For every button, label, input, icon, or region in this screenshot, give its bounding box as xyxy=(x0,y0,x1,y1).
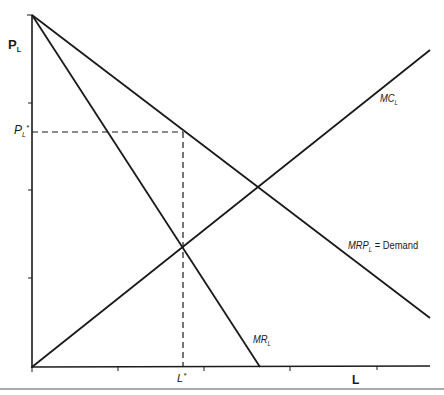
x-axis xyxy=(31,366,430,367)
mr-curve-label: MRL xyxy=(253,334,271,347)
mr-curve xyxy=(32,15,260,367)
mc-curve xyxy=(32,50,430,367)
equilibrium-price-label: PL* xyxy=(14,124,29,138)
mrp-demand-curve xyxy=(32,15,430,318)
mc-curve-label: MCL xyxy=(380,93,398,106)
monopsony-diagram xyxy=(0,0,444,395)
x-axis-label: L xyxy=(352,374,359,386)
y-axis-label: PL xyxy=(8,38,21,53)
mrp-demand-curve-label: MRPL = Demand xyxy=(348,240,418,253)
equilibrium-quantity-label: L* xyxy=(177,372,186,384)
